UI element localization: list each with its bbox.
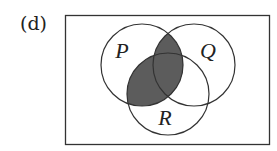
shaded-region (127, 24, 235, 135)
set-r-label: R (157, 105, 172, 130)
set-q-label: Q (200, 38, 216, 63)
venn-diagram: P Q R (0, 0, 277, 151)
set-p-label: P (114, 38, 128, 63)
